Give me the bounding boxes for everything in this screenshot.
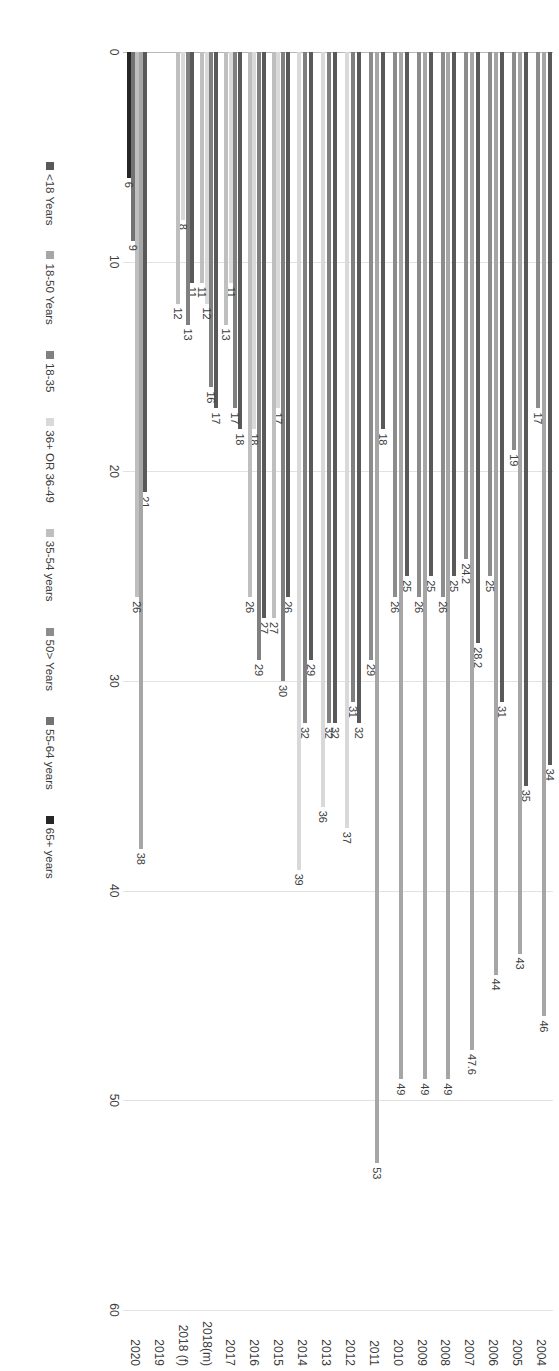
bar — [536, 52, 540, 408]
bar-row: 18 — [238, 52, 243, 1310]
legend-item[interactable]: 18-35 — [44, 351, 56, 392]
bar-row: 17 — [276, 52, 281, 1310]
bar — [248, 52, 252, 597]
bar — [327, 52, 331, 723]
category-label: 2017 — [224, 1339, 238, 1366]
bar-group: 323236 — [314, 52, 338, 1310]
bar-row: 25 — [428, 52, 434, 1310]
bar — [262, 52, 266, 618]
category-label: 2013 — [319, 1339, 333, 1366]
legend-swatch-icon — [46, 717, 54, 725]
axis-tick-10: 10 — [107, 255, 121, 268]
bar-row: 18 — [252, 52, 257, 1310]
bar — [257, 52, 261, 660]
bar-row: 12 — [204, 52, 209, 1310]
bar-group: 17161211 — [195, 52, 219, 1310]
bar — [500, 52, 504, 702]
bar — [181, 52, 185, 220]
bar-group: 26301727 — [266, 52, 290, 1310]
chart-legend: <18 Years18-50 Years18-3536+ OR 36-4935-… — [39, 54, 61, 1310]
bar — [476, 52, 480, 643]
bar-row: 32 — [302, 52, 308, 1310]
bar-row: 11 — [190, 52, 195, 1310]
bar — [542, 52, 546, 1016]
category-label: 2020 — [128, 1339, 142, 1366]
bar-row: 9 — [131, 52, 135, 1310]
bar-group: 1113812 — [171, 52, 195, 1310]
legend-item[interactable]: 50> Years — [44, 628, 56, 691]
bar — [470, 52, 474, 1050]
legend-label: 18-50 Years — [44, 263, 56, 324]
bar-row: 43 — [517, 52, 523, 1310]
bar-group: 314425 — [481, 52, 505, 1310]
bar-value-label: 6 — [123, 182, 135, 188]
bar-row: 47.6 — [469, 52, 475, 1310]
bar-group: 344617 — [529, 52, 553, 1310]
bar — [127, 52, 131, 178]
bar — [405, 52, 409, 576]
bar-row: 6 — [127, 52, 131, 1310]
bar — [286, 52, 290, 597]
axis-tick-50: 50 — [107, 1094, 121, 1107]
bar-value-label: 25 — [484, 580, 496, 592]
legend-item[interactable]: 55-64 years — [44, 717, 56, 790]
bar — [417, 52, 421, 597]
legend-item[interactable]: 65+ years — [44, 816, 56, 879]
bar — [238, 52, 242, 429]
bar — [281, 52, 285, 681]
bar-row: 18 — [380, 52, 386, 1310]
bar-row: 13 — [223, 52, 228, 1310]
bar — [209, 52, 213, 387]
bar-value-label: 26 — [413, 601, 425, 613]
legend-item[interactable]: 18-50 Years — [44, 251, 56, 324]
category-axis: 2004200520062007200820092010201120122013… — [123, 1312, 553, 1368]
bar — [303, 52, 307, 723]
bar-row: 25 — [487, 52, 493, 1310]
bar-value-label: 26 — [244, 601, 256, 613]
bar — [452, 52, 456, 576]
legend-label: 18-35 — [44, 363, 56, 392]
bar-row: 26 — [440, 52, 446, 1310]
bar — [518, 52, 522, 954]
category-label: 2018 (f) — [176, 1325, 190, 1366]
bar-row: 25 — [451, 52, 457, 1310]
bar-row: 25 — [404, 52, 410, 1310]
bar-row: 44 — [493, 52, 499, 1310]
legend-swatch-icon — [46, 251, 54, 259]
legend-label: <18 Years — [44, 174, 56, 225]
bar-value-label: 29 — [365, 664, 377, 676]
category-label: 2014 — [295, 1339, 309, 1366]
bar-row: 26 — [416, 52, 422, 1310]
bar-row: 53 — [374, 52, 380, 1310]
legend-item[interactable]: 36+ OR 36-49 — [44, 418, 56, 503]
bar-group: 293239 — [290, 52, 314, 1310]
axis-tick-0: 0 — [107, 49, 121, 56]
bar-row: 16 — [209, 52, 214, 1310]
bar-row: 26 — [135, 52, 139, 1310]
legend-label: 36+ OR 36-49 — [44, 430, 56, 503]
bar-row: 32 — [356, 52, 362, 1310]
legend-swatch-icon — [46, 351, 54, 359]
bar-value-label: 17 — [532, 412, 544, 424]
bar-row: 32 — [326, 52, 332, 1310]
legend-label: 65+ years — [44, 828, 56, 879]
category-label: 2007 — [462, 1339, 476, 1366]
bar-row: 34 — [547, 52, 553, 1310]
bar-value-label: 36 — [317, 811, 329, 823]
category-label: 2015 — [271, 1339, 285, 1366]
bar — [512, 52, 516, 450]
bar-row: 49 — [398, 52, 404, 1310]
bar-group: 254926 — [434, 52, 458, 1310]
bar-row: 26 — [392, 52, 398, 1310]
bar — [233, 52, 237, 408]
bar-value-label: 26 — [437, 601, 449, 613]
category-label: 2016 — [247, 1339, 261, 1366]
legend-item[interactable]: 35-54 years — [44, 529, 56, 602]
legend-item[interactable]: <18 Years — [44, 162, 56, 225]
bar — [393, 52, 397, 597]
bar-group: 254926 — [386, 52, 410, 1310]
bar-group: 27291826 — [242, 52, 266, 1310]
bar-row: 17 — [233, 52, 238, 1310]
bar-row: 11 — [199, 52, 204, 1310]
bar-row: 17 — [214, 52, 219, 1310]
